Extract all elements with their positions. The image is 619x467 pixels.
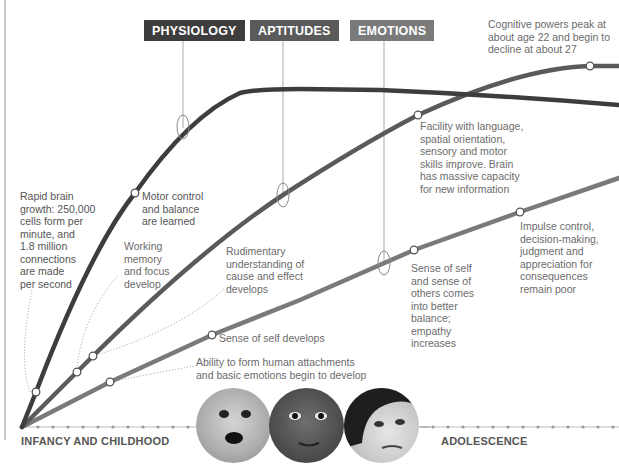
cognitive-peak-note: Cognitive powers peak at about age 22 an… (488, 18, 619, 56)
aptitudes-label: APTITUDES (250, 20, 339, 41)
working-memory-note: Working memory and focus develop (124, 240, 170, 290)
adolescence-stage-label: ADOLESCENCE (441, 435, 528, 447)
infant-photo (196, 388, 271, 463)
rapid-growth-note: Rapid brain growth: 250,000 cells form p… (20, 190, 95, 290)
attachments-note: Ability to form human attachments and ba… (196, 356, 366, 381)
adolescent-photo (344, 388, 419, 463)
emotions-label: EMOTIONS (350, 20, 434, 41)
facility-language-note: Facility with language, spatial orientat… (420, 120, 523, 195)
child-photo (269, 388, 344, 463)
sense-self-others-note: Sense of self and sense of others comes … (411, 262, 474, 350)
rudimentary-leader (93, 288, 225, 356)
adolescent-face-icon (344, 388, 419, 463)
physiology-label: PHYSIOLOGY (144, 20, 245, 41)
infant-face-icon (196, 388, 271, 463)
rapid-growth-leader (24, 290, 32, 392)
impulse-control-note: Impulse control, decision-making, judgme… (520, 220, 599, 295)
milestone-points (32, 62, 594, 396)
child-face-icon (269, 388, 344, 463)
emotions-curve (22, 178, 619, 427)
rudimentary-note: Rudimentary understanding of cause and e… (226, 245, 304, 295)
sense-of-self-note: Sense of self develops (219, 332, 325, 345)
infancy-stage-label: INFANCY AND CHILDHOOD (21, 435, 169, 447)
motor-control-note: Motor control and balance are learned (142, 190, 203, 228)
